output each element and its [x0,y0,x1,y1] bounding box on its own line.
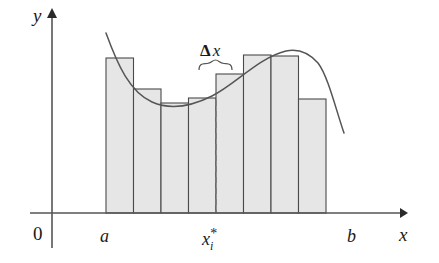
x-axis-arrow-icon [400,208,408,218]
delta-x-variable: x [212,41,221,60]
bar-6 [244,55,272,213]
sample-point-base: x [201,229,210,249]
origin-label: 0 [33,223,43,244]
bar-8 [299,99,327,213]
y-axis-label: y [31,5,42,26]
y-axis-arrow-icon [47,8,57,18]
riemann-sum-diagram: y x 0 a b Δx xi* [0,0,439,263]
riemann-sum-figure: y x 0 a b Δx xi* [0,0,439,263]
bar-5 [216,74,244,213]
sample-point-label: xi* [201,226,217,253]
right-endpoint-label: b [347,226,356,246]
bar-3 [161,103,189,213]
x-axis-label: x [398,224,408,245]
delta-symbol: Δ [200,41,211,60]
bar-2 [134,89,162,213]
bar-4 [189,98,217,213]
sample-point-star: * [210,226,217,241]
delta-x-brace [199,60,232,70]
bar-7 [271,56,299,213]
sample-point-subscript: i [210,239,213,253]
left-endpoint-label: a [100,226,109,246]
delta-x-label: Δx [200,41,221,60]
